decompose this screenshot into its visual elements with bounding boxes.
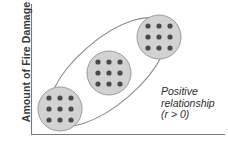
data-point [106,70,111,75]
data-point [95,81,100,86]
data-point [68,95,73,100]
plot-area [0,0,228,146]
data-point [46,117,51,122]
data-point [106,81,111,86]
data-point [167,34,172,39]
data-point [145,23,150,28]
data-point [145,45,150,50]
data-point [117,59,122,64]
cluster-low-low [38,87,82,131]
cluster-mid-mid [87,51,131,95]
data-point [46,106,51,111]
correlation-scatter-figure: Amount of Fire Damage Positive relations… [0,0,228,146]
data-point [156,34,161,39]
correlation-annotation: Positive relationship (r > 0) [161,86,215,121]
annotation-line-1: Positive [161,86,215,98]
data-point [156,45,161,50]
data-point [117,81,122,86]
data-point [46,95,51,100]
data-point [117,70,122,75]
data-point [167,23,172,28]
annotation-line-3: (r > 0) [161,109,215,121]
data-point [57,95,62,100]
data-point [156,23,161,28]
data-point [145,34,150,39]
data-point [167,45,172,50]
data-point [106,59,111,64]
y-axis-label: Amount of Fire Damage [20,0,32,128]
data-point [68,117,73,122]
data-point [68,106,73,111]
data-point [57,106,62,111]
cluster-high-high [137,15,181,59]
data-point [95,59,100,64]
data-point [57,117,62,122]
data-point [95,70,100,75]
